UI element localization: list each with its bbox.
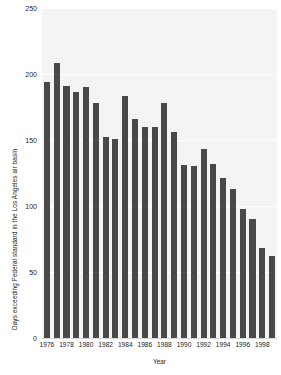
x-axis-tick-label: 1994 [216, 341, 231, 348]
bar [63, 86, 69, 338]
y-axis-tick-label: 200 [25, 71, 37, 78]
x-axis-tick-label: 1992 [196, 341, 211, 348]
x-axis-tick-label: 1978 [59, 341, 74, 348]
y-axis-tick-label: 150 [25, 137, 37, 144]
bar [161, 103, 167, 338]
bar [220, 178, 226, 338]
bar-series [42, 8, 277, 338]
bar [112, 139, 118, 338]
x-axis-tick-labels: 1976197819801982198419861988199019921994… [42, 341, 277, 355]
bar [191, 166, 197, 338]
x-axis-baseline [42, 338, 277, 339]
bar [54, 63, 60, 338]
plot-area [42, 8, 277, 338]
bar [230, 189, 236, 338]
x-axis-tick-label: 1998 [255, 341, 270, 348]
bar [210, 164, 216, 338]
x-axis-tick-label: 1990 [177, 341, 192, 348]
bar [201, 149, 207, 338]
bar [103, 137, 109, 338]
bar [171, 132, 177, 338]
bar [44, 82, 50, 338]
bar [240, 209, 246, 338]
bar [132, 119, 138, 338]
x-axis-tick-label: 1986 [137, 341, 152, 348]
x-axis-tick-label: 1980 [79, 341, 94, 348]
y-axis-tick-labels: 050100150200250 [14, 0, 40, 375]
y-axis-tick-label: 100 [25, 203, 37, 210]
bar [93, 103, 99, 338]
bar [269, 256, 275, 338]
bar [259, 248, 265, 338]
y-axis-tick-label: 50 [29, 269, 37, 276]
x-axis-tick-label: 1996 [235, 341, 250, 348]
y-axis-tick-label: 250 [25, 5, 37, 12]
bar-chart-figure: Days exceeding Federal standard in the L… [0, 0, 281, 375]
x-axis-title: Year [42, 358, 277, 365]
bar [122, 96, 128, 338]
x-axis-tick-label: 1976 [40, 341, 55, 348]
bar [181, 165, 187, 338]
x-axis-tick-label: 1984 [118, 341, 133, 348]
bar [142, 127, 148, 338]
x-axis-tick-label: 1982 [98, 341, 113, 348]
x-axis-tick-label: 1988 [157, 341, 172, 348]
bar [152, 127, 158, 338]
bar [73, 92, 79, 338]
bar [83, 87, 89, 338]
bar [249, 219, 255, 338]
y-axis-tick-label: 0 [33, 335, 37, 342]
